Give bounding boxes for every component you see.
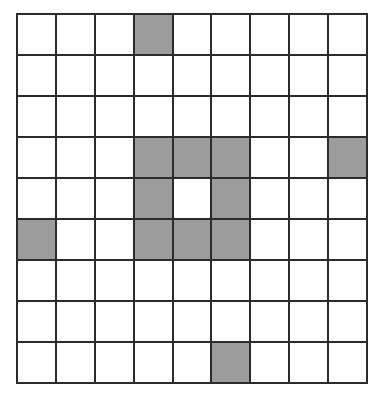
grid-cell-empty: [251, 97, 288, 136]
grid-cell-shaded: [212, 138, 249, 177]
grid-cell-empty: [251, 56, 288, 95]
grid-cell-shaded: [135, 179, 172, 218]
grid-figure: [16, 13, 368, 384]
grid-cell-empty: [135, 302, 172, 341]
grid-cell-shaded: [135, 15, 172, 54]
grid-cell-empty: [96, 343, 133, 382]
grid-cell-empty: [329, 261, 366, 300]
grid-cell-empty: [18, 343, 55, 382]
grid-cell-empty: [57, 261, 94, 300]
grid-cell-empty: [329, 179, 366, 218]
grid-cell-empty: [329, 97, 366, 136]
grid-cell-empty: [96, 179, 133, 218]
grid-cell-empty: [135, 56, 172, 95]
grid-cell-empty: [96, 220, 133, 259]
grid-cell-empty: [18, 97, 55, 136]
grid-cell-empty: [96, 56, 133, 95]
grid-cell-empty: [251, 179, 288, 218]
grid-cell-empty: [57, 56, 94, 95]
grid-cell-empty: [251, 302, 288, 341]
grid-cell-empty: [96, 97, 133, 136]
grid-cell-shaded: [329, 138, 366, 177]
grid-cell-shaded: [174, 220, 211, 259]
grid-cell-empty: [174, 15, 211, 54]
grid-cell-empty: [329, 220, 366, 259]
grid-cell-empty: [290, 343, 327, 382]
grid-cell-empty: [290, 15, 327, 54]
grid-cell-empty: [212, 56, 249, 95]
grid-cell-empty: [135, 261, 172, 300]
grid-cell-empty: [18, 138, 55, 177]
grid-cell-shaded: [212, 220, 249, 259]
grid-cell-empty: [57, 302, 94, 341]
grid-cell-shaded: [212, 179, 249, 218]
grid-cell-empty: [174, 302, 211, 341]
grid-cell-empty: [57, 343, 94, 382]
grid-cell-empty: [57, 138, 94, 177]
grid-cell-empty: [212, 302, 249, 341]
grid-cell-empty: [18, 302, 55, 341]
grid-cell-shaded: [135, 220, 172, 259]
grid-cell-empty: [18, 261, 55, 300]
grid-cell-empty: [18, 179, 55, 218]
grid-cell-empty: [251, 220, 288, 259]
grid-cell-empty: [57, 220, 94, 259]
grid-cell-empty: [290, 302, 327, 341]
grid-cell-empty: [96, 302, 133, 341]
grid-cell-empty: [18, 56, 55, 95]
grid-cell-empty: [290, 179, 327, 218]
grid-cell-empty: [174, 56, 211, 95]
grid-cell-empty: [290, 138, 327, 177]
grid-cell-empty: [135, 97, 172, 136]
grid-cell-empty: [329, 56, 366, 95]
grid-cell-empty: [290, 97, 327, 136]
grid-cell-shaded: [174, 138, 211, 177]
grid-cell-empty: [251, 15, 288, 54]
grid-cell-empty: [96, 261, 133, 300]
grid-cell-empty: [212, 261, 249, 300]
grid-cell-empty: [96, 15, 133, 54]
grid-cell-empty: [57, 97, 94, 136]
grid-cell-empty: [329, 343, 366, 382]
grid-cell-empty: [174, 343, 211, 382]
grid-cell-empty: [212, 97, 249, 136]
grid-cell-empty: [329, 15, 366, 54]
grid-cell-empty: [329, 302, 366, 341]
grid-cell-empty: [251, 138, 288, 177]
grid-cell-empty: [212, 15, 249, 54]
grid-cell-empty: [135, 343, 172, 382]
grid-cell-empty: [57, 179, 94, 218]
grid-cell-empty: [174, 179, 211, 218]
grid-cell-empty: [251, 343, 288, 382]
grid-cell-empty: [290, 220, 327, 259]
grid-cell-empty: [57, 15, 94, 54]
grid-cell-empty: [96, 138, 133, 177]
grid-cell-empty: [251, 261, 288, 300]
page-root: [0, 0, 383, 398]
grid-cell-empty: [290, 261, 327, 300]
grid-cell-empty: [18, 15, 55, 54]
grid-cell-empty: [174, 97, 211, 136]
grid-cell-empty: [174, 261, 211, 300]
grid-cell-shaded: [18, 220, 55, 259]
grid-cell-shaded: [135, 138, 172, 177]
grid-cell-shaded: [212, 343, 249, 382]
grid-cell-empty: [290, 56, 327, 95]
